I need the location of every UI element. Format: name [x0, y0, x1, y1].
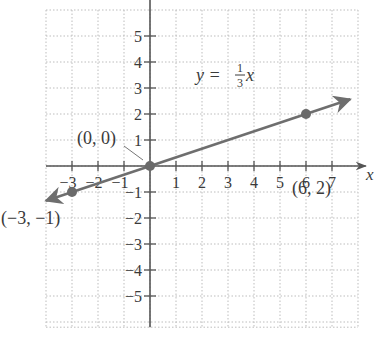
equation-denominator: 3 — [237, 76, 243, 90]
point-label-origin: (0, 0) — [77, 128, 116, 149]
point-label-neg3-neg1: (−3, −1) — [1, 208, 60, 229]
y-tick-label: −2 — [125, 210, 142, 227]
data-point — [145, 161, 155, 171]
x-tick-label: 2 — [198, 174, 206, 191]
coordinate-plane: −3−2−11234567 54321−1−2−3−4−5 x y = 1 3 … — [0, 0, 380, 345]
data-point — [301, 109, 311, 119]
y-tick-label: 5 — [134, 28, 142, 45]
y-tick-label: 3 — [134, 80, 142, 97]
equation-label: y = 1 3 x — [194, 61, 254, 90]
x-tick-label: 1 — [172, 174, 180, 191]
y-tick-label: 4 — [134, 54, 142, 71]
data-point — [67, 187, 77, 197]
y-tick-label: −1 — [125, 184, 142, 201]
y-tick-label: 2 — [134, 106, 142, 123]
x-tick-label: 5 — [276, 174, 284, 191]
y-tick-label: −5 — [125, 288, 142, 305]
y-tick-label: −3 — [125, 236, 142, 253]
x-tick-label: 4 — [250, 174, 258, 191]
y-tick-label: 1 — [134, 132, 142, 149]
point-label-6-2: (6, 2) — [292, 178, 331, 199]
equation-variable: x — [245, 65, 254, 85]
axes — [46, 0, 366, 327]
x-tick-label: 3 — [224, 174, 232, 191]
equation-lhs: y = — [194, 65, 221, 85]
equation-numerator: 1 — [237, 61, 243, 75]
y-tick-label: −4 — [125, 262, 142, 279]
x-axis-label: x — [365, 165, 374, 184]
